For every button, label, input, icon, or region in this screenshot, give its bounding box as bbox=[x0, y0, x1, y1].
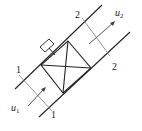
pipe-upper-wall bbox=[15, 5, 102, 89]
section-1-line bbox=[19, 75, 52, 111]
section-2-top-label: 2 bbox=[75, 9, 80, 20]
section-2-line bbox=[82, 18, 110, 56]
velocity-u2-label: u2 bbox=[115, 7, 124, 20]
section-1-bottom-label: 1 bbox=[51, 109, 56, 120]
gauge-box bbox=[40, 39, 55, 55]
pipe-flow-diagram: 1 1 2 2 u1 u2 bbox=[0, 0, 142, 131]
section-2-bottom-label: 2 bbox=[112, 61, 117, 72]
velocity-u1-label: u1 bbox=[11, 102, 20, 115]
velocity-u1-arrow bbox=[28, 87, 46, 106]
section-1-top-label: 1 bbox=[16, 64, 21, 75]
